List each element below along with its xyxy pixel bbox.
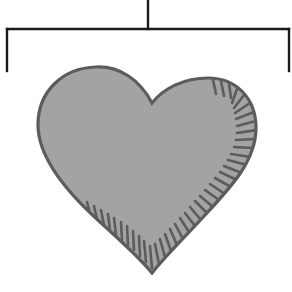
diagram-canvas <box>0 0 292 292</box>
heart-icon <box>38 67 257 273</box>
heart-fill <box>38 67 256 273</box>
diagram-svg <box>0 0 292 292</box>
tree-connector <box>7 0 289 71</box>
